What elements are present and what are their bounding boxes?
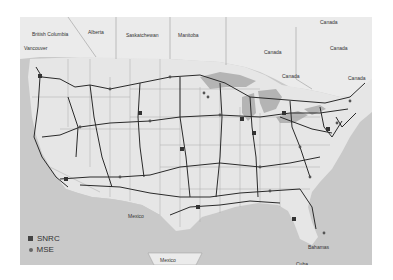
legend-item-snrc: SNRC [28, 233, 60, 244]
legend-label-snrc: SNRC [37, 234, 60, 243]
label-canada-lakes: Canada [264, 49, 282, 55]
square-marker-icon [28, 236, 33, 241]
circle-marker-icon [29, 248, 33, 252]
map-graphic [20, 17, 372, 265]
legend-item-mse: MSE [28, 244, 60, 255]
label-mexico-gulf: Mexico [128, 213, 144, 219]
label-mexico-box: Mexico [160, 257, 176, 263]
network-map: British Columbia Alberta Saskatchewan Ma… [20, 17, 372, 265]
label-canada-ne: Canada [330, 45, 348, 51]
label-vancouver: Vancouver [24, 45, 48, 51]
label-british-columbia: British Columbia [32, 31, 68, 37]
map-legend: SNRC MSE [28, 233, 60, 255]
label-manitoba: Manitoba [178, 32, 199, 38]
label-alberta: Alberta [88, 29, 104, 35]
label-canada-top: Canada [320, 19, 338, 25]
label-bahamas: Bahamas [308, 244, 329, 250]
label-saskatchewan: Saskatchewan [126, 32, 159, 38]
label-canada-east: Canada [348, 75, 366, 81]
legend-label-mse: MSE [37, 245, 54, 254]
label-cuba: Cuba [296, 261, 308, 265]
label-canada-ontario: Canada [282, 73, 300, 79]
